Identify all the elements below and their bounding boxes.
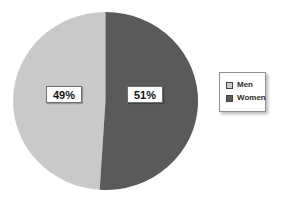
legend-label-men: Men [237,81,253,89]
legend-item-men: Men [226,81,265,89]
slice-label-men: 49% [46,86,82,103]
legend-label-women: Women [237,94,266,102]
legend: Men Women [219,72,266,112]
pie-chart-figure: 49% 51% Men Women [0,0,284,198]
legend-swatch-women-icon [226,95,233,102]
legend-item-women: Women [226,94,265,102]
legend-swatch-men-icon [226,82,233,89]
slice-label-women: 51% [127,86,163,103]
